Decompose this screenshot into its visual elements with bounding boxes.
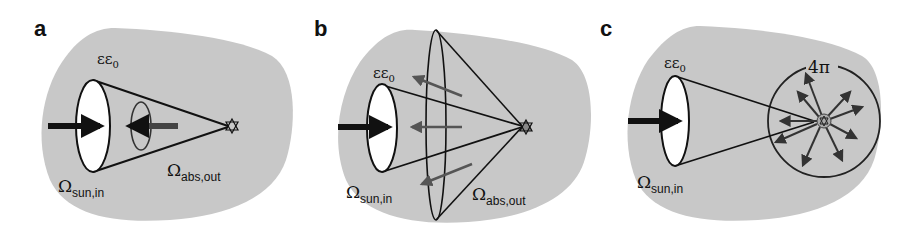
panel-b: b εε0 Ωsun,in Ωabs,out bbox=[314, 16, 591, 223]
solid-angle-diagram: a εε0 Ωsun,in Ωabs,out b εε0 bbox=[0, 0, 920, 236]
panel-label: c bbox=[600, 16, 612, 41]
panel-a: a εε0 Ωsun,in Ωabs,out bbox=[34, 16, 293, 221]
panel-label: b bbox=[314, 16, 327, 41]
panel-label: a bbox=[34, 16, 47, 41]
four-pi-label: 4π bbox=[808, 57, 830, 77]
panel-c: c εε0 4π Ωsun,in bbox=[600, 16, 881, 221]
